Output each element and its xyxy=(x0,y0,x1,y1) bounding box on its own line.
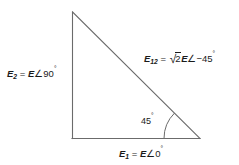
phasor-triangle-figure xyxy=(0,0,239,165)
label-e12-degree: ° xyxy=(213,50,216,57)
label-e12: E12 = √2E∠−45° xyxy=(144,52,215,64)
label-e2-subscript: 2 xyxy=(13,73,17,80)
label-e12-radicand: 2 xyxy=(175,52,181,64)
label-e1: E1 = E∠0° xyxy=(119,148,163,159)
label-e1-equals: = xyxy=(132,148,138,159)
label-e1-subscript: 1 xyxy=(125,153,129,160)
label-e12-equals: = xyxy=(161,53,167,64)
label-e2-equals: = xyxy=(20,68,26,79)
angle-symbol-icon: ∠ xyxy=(146,148,155,159)
label-angle-value: 45 xyxy=(141,116,151,126)
angle-symbol-icon: ∠ xyxy=(34,68,43,79)
square-root-icon: √2 xyxy=(169,52,181,64)
label-e2-degree: ° xyxy=(54,65,57,72)
hypotenuse-e12 xyxy=(73,12,201,139)
label-angle-45: 45° xyxy=(141,115,154,126)
label-e2: E2 = E∠90° xyxy=(7,68,57,79)
label-e2-angle-value: 90 xyxy=(43,68,54,79)
label-e12-subscript: 12 xyxy=(150,58,158,65)
label-e12-angle-value: −45 xyxy=(196,53,212,64)
label-e1-angle-value: 0 xyxy=(155,148,160,159)
label-e1-degree: ° xyxy=(161,145,164,152)
label-angle-degree: ° xyxy=(151,112,154,119)
angle-arc-45 xyxy=(164,113,175,138)
